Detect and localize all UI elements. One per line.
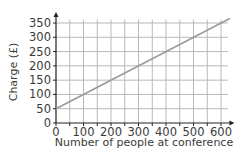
charge-line [56, 18, 230, 108]
y-axis-arrow-icon [54, 12, 59, 17]
x-axis-label: Number of people at conference [55, 136, 234, 149]
y-axis-label: Charge (£) [7, 43, 20, 102]
y-tick-labels: 050100150200250300350 [29, 16, 51, 130]
charge-line-chart: 050100150200250300350 010020030040050060… [0, 0, 242, 164]
y-tick-label: 150 [29, 73, 51, 87]
data-series [56, 18, 230, 108]
y-tick-label: 300 [29, 30, 51, 44]
y-tick-label: 50 [36, 102, 51, 116]
y-tick-label: 350 [29, 16, 51, 30]
y-tick-label: 250 [29, 45, 51, 59]
y-tick-label: 100 [29, 87, 51, 101]
y-tick-label: 0 [44, 116, 51, 130]
y-tick-label: 200 [29, 59, 51, 73]
grid-lines [56, 20, 228, 123]
